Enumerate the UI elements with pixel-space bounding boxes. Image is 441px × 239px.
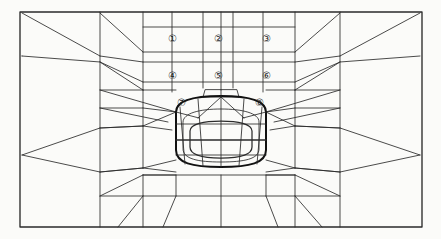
paper-background	[0, 0, 441, 239]
mesh-drawing: ① ② ③ ④ ⑤ ⑥ ⑦ ⑧	[0, 0, 441, 239]
fem-mesh-figure: ① ② ③ ④ ⑤ ⑥ ⑦ ⑧	[0, 0, 441, 239]
